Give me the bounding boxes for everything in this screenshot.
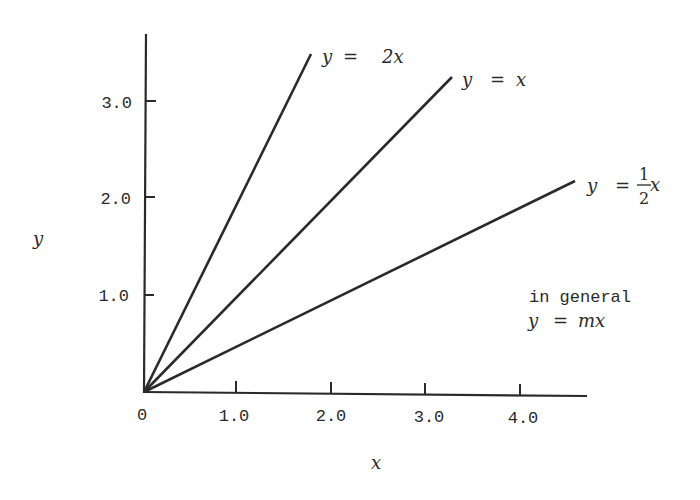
- y-axis-label: y: [32, 228, 44, 249]
- general-annotation-y: y: [527, 310, 539, 331]
- y-axis: [144, 34, 146, 393]
- label-y-x-eq: =: [490, 69, 505, 90]
- label-y-2x-rhs: 2x: [381, 46, 404, 67]
- label-y-2x-y: y: [321, 46, 333, 67]
- label-y-half-x-y: y: [586, 175, 598, 196]
- x-tick-label-1: 1.0: [219, 407, 250, 426]
- x-tick-label-4: 4.0: [508, 409, 539, 428]
- line-y-half-x: [144, 181, 575, 392]
- x-tick-label-2: 2.0: [316, 407, 347, 426]
- label-y-half-x-eq: =: [615, 175, 630, 196]
- general-annotation-text: in general: [529, 288, 631, 307]
- x-tick-label-0: 0: [137, 406, 147, 425]
- general-annotation-rhs: mx: [578, 310, 605, 331]
- x-tick-label-3: 3.0: [414, 408, 445, 427]
- label-y-x-rhs: x: [516, 69, 526, 90]
- line-y-2x: [144, 54, 311, 392]
- label-y-x-y: y: [461, 69, 473, 90]
- label-y-half-x-var: x: [650, 174, 660, 195]
- label-y-half-x-den: 2: [639, 189, 649, 208]
- linear-functions-chart: 3.0 2.0 1.0 0 1.0 2.0 3.0 4.0 y x y = 2x…: [0, 0, 700, 500]
- label-y-half-x-num: 1: [639, 165, 649, 184]
- label-y-2x-eq: =: [343, 46, 358, 67]
- y-tick-label-3: 3.0: [101, 94, 132, 113]
- line-y-x: [144, 77, 452, 392]
- x-axis-label: x: [371, 452, 381, 473]
- general-annotation-eq: =: [553, 310, 568, 331]
- y-tick-label-1: 1.0: [98, 287, 129, 306]
- y-tick-label-2: 2.0: [100, 190, 131, 209]
